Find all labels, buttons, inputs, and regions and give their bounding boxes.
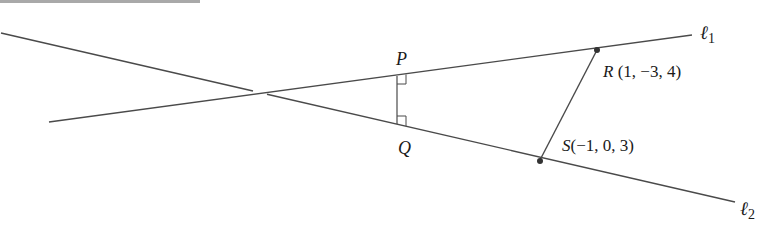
label-l1-symbol: ℓ: [700, 22, 708, 43]
label-r: R (1, −3, 4): [602, 62, 681, 81]
skew-lines-diagram: P Q R (1, −3, 4) S(−1, 0, 3) ℓ1 ℓ2: [0, 0, 765, 229]
label-l2-symbol: ℓ: [740, 198, 748, 219]
right-angle-marker-p: [397, 75, 406, 85]
header-bar: [0, 0, 200, 3]
point-s-dot: [537, 158, 543, 164]
line-l2: [1, 33, 735, 202]
label-l1: ℓ1: [700, 22, 715, 46]
point-r-dot: [594, 47, 600, 53]
label-l1-subscript: 1: [708, 31, 715, 46]
label-p: P: [395, 49, 407, 69]
label-r-name: R: [602, 62, 614, 81]
label-q: Q: [398, 138, 411, 158]
label-s-coords: (−1, 0, 3): [571, 136, 634, 155]
label-s: S(−1, 0, 3): [562, 136, 634, 155]
label-r-coords: (1, −3, 4): [613, 62, 681, 81]
label-l2: ℓ2: [740, 198, 755, 222]
label-l2-subscript: 2: [748, 207, 755, 222]
